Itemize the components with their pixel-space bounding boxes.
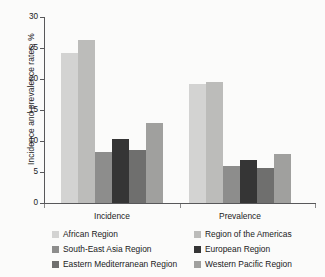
bar-chart: Incidence and prevalence rates, % 0 5 10… xyxy=(0,0,325,277)
y-tick-label-15: 15 xyxy=(29,106,38,114)
y-tick-label-5: 5 xyxy=(33,168,38,176)
legend-swatch-icon-south-east-asia-region xyxy=(52,246,59,253)
bar-incidence-african-region xyxy=(61,53,78,203)
chart-legend: African Region Region of the Americas So… xyxy=(52,227,320,273)
legend-swatch-icon-region-of-the-americas xyxy=(194,231,201,238)
legend-label-south-east-asia-region: South-East Asia Region xyxy=(63,245,151,254)
bar-incidence-western-pacific-region xyxy=(146,123,163,203)
x-tick-mark-end xyxy=(315,204,316,208)
y-tick-label-25: 25 xyxy=(29,44,38,52)
x-axis-label-prevalence: Prevalence xyxy=(195,211,285,221)
bar-prevalence-eastern-mediterranean-region xyxy=(257,168,274,203)
y-tick-label-0: 0 xyxy=(33,199,38,207)
legend-label-eastern-mediterranean-region: Eastern Mediterranean Region xyxy=(63,260,177,269)
legend-item-south-east-asia-region[interactable]: South-East Asia Region xyxy=(52,245,194,254)
x-tick-mark-mid xyxy=(180,204,181,208)
legend-swatch-icon-eastern-mediterranean-region xyxy=(52,261,59,268)
bar-incidence-south-east-asia-region xyxy=(95,152,112,203)
bar-prevalence-south-east-asia-region xyxy=(223,166,240,203)
legend-row-1: African Region Region of the Americas xyxy=(52,227,320,242)
y-tick-label-10: 10 xyxy=(29,137,38,145)
legend-swatch-icon-african-region xyxy=(52,231,59,238)
legend-item-african-region[interactable]: African Region xyxy=(52,230,194,239)
bar-prevalence-region-of-the-americas xyxy=(206,82,223,203)
legend-row-3: Eastern Mediterranean Region Western Pac… xyxy=(52,257,320,272)
bar-incidence-eastern-mediterranean-region xyxy=(129,150,146,203)
y-tick-label-20: 20 xyxy=(29,75,38,83)
legend-item-european-region[interactable]: European Region xyxy=(194,245,320,254)
legend-row-2: South-East Asia Region European Region xyxy=(52,242,320,257)
legend-item-eastern-mediterranean-region[interactable]: Eastern Mediterranean Region xyxy=(52,260,194,269)
legend-item-region-of-the-americas[interactable]: Region of the Americas xyxy=(194,230,320,239)
legend-label-region-of-the-americas: Region of the Americas xyxy=(205,230,292,239)
legend-label-european-region: European Region xyxy=(205,245,270,254)
x-axis-label-incidence: Incidence xyxy=(67,211,157,221)
legend-swatch-icon-western-pacific-region xyxy=(194,261,201,268)
legend-label-african-region: African Region xyxy=(63,230,118,239)
legend-swatch-icon-european-region xyxy=(194,246,201,253)
bar-incidence-european-region xyxy=(112,139,129,203)
bar-incidence-region-of-the-americas xyxy=(78,40,95,203)
bar-prevalence-african-region xyxy=(189,84,206,203)
bar-prevalence-european-region xyxy=(240,160,257,203)
plot-area xyxy=(44,17,316,203)
legend-label-western-pacific-region: Western Pacific Region xyxy=(205,260,292,269)
bar-prevalence-western-pacific-region xyxy=(274,154,291,203)
y-tick-label-30: 30 xyxy=(29,13,38,21)
legend-item-western-pacific-region[interactable]: Western Pacific Region xyxy=(194,260,320,269)
x-tick-mark-incidence xyxy=(44,204,45,208)
